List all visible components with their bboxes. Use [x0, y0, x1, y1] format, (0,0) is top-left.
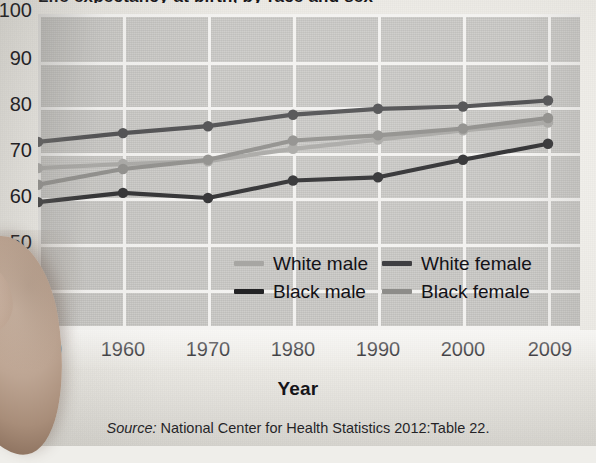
y-tick-100: 100 — [0, 0, 32, 20]
data-point — [543, 95, 553, 105]
data-point — [288, 110, 298, 120]
legend-item-black-male[interactable]: Black male — [234, 282, 382, 301]
x-tick-1970: 1970 — [186, 339, 231, 359]
data-point — [288, 135, 298, 145]
data-point — [458, 101, 468, 111]
data-point — [373, 172, 383, 182]
legend: White male White female Black male Black… — [234, 254, 564, 301]
legend-swatch-black-female — [382, 289, 412, 294]
thumbnail — [0, 264, 14, 337]
legend-item-black-female[interactable]: Black female — [382, 282, 564, 301]
data-point — [203, 193, 213, 203]
data-point — [288, 175, 298, 185]
data-point — [543, 113, 553, 123]
data-point — [38, 137, 43, 147]
x-tick-1960: 1960 — [101, 339, 146, 359]
x-tick-2009: 2009 — [528, 339, 573, 359]
source-note: Source: National Center for Health Stati… — [0, 420, 596, 436]
source-label: Source: — [107, 420, 157, 436]
legend-label-white-female: White female — [421, 254, 532, 273]
data-point — [203, 121, 213, 131]
data-point — [118, 188, 128, 198]
x-tick-1980: 1980 — [271, 339, 316, 359]
legend-item-white-female[interactable]: White female — [382, 254, 564, 273]
data-point — [118, 128, 128, 138]
source-text: National Center for Health Statistics 20… — [157, 420, 490, 436]
legend-swatch-black-male — [234, 289, 264, 294]
y-tick-80: 80 — [0, 94, 32, 114]
x-tick-1990: 1990 — [356, 339, 401, 359]
data-point — [543, 139, 553, 149]
y-tick-70: 70 — [0, 140, 32, 160]
data-point — [38, 163, 43, 173]
chart-title-cropped: Life expectancy at birth, by race and se… — [38, 0, 398, 3]
legend-label-black-female: Black female — [421, 282, 530, 301]
legend-label-white-male: White male — [273, 254, 368, 273]
data-point — [373, 104, 383, 114]
plot-area: White male White female Black male Black… — [38, 14, 580, 330]
data-point — [203, 155, 213, 165]
y-tick-60: 60 — [0, 186, 32, 206]
data-point — [118, 164, 128, 174]
y-tick-90: 90 — [0, 48, 32, 68]
data-point — [38, 180, 43, 190]
x-tick-2000: 2000 — [441, 339, 486, 359]
data-point — [458, 155, 468, 165]
legend-label-black-male: Black male — [273, 282, 366, 301]
x-axis-title: Year — [0, 378, 596, 400]
legend-swatch-white-male — [234, 261, 264, 266]
data-point — [38, 197, 43, 207]
legend-swatch-white-female — [382, 261, 412, 266]
legend-item-white-male[interactable]: White male — [234, 254, 382, 273]
data-point — [458, 123, 468, 133]
plot-bottom-axis — [38, 326, 580, 330]
data-point — [373, 130, 383, 140]
